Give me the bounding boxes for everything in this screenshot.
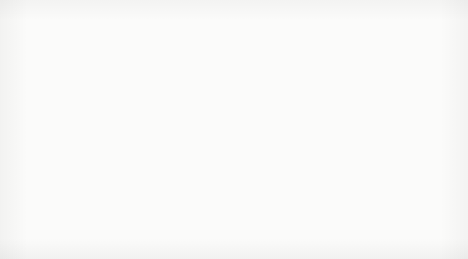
- x-axis-title: Time: [257, 243, 279, 253]
- x-tick-75: 75: [353, 231, 363, 241]
- scale-label-top: 1:: [8, 30, 16, 39]
- y-tick-0.50: 0.50: [44, 123, 82, 133]
- x-tick-0: 0: [85, 231, 90, 241]
- y-axis-labels: 1.00 0.50 0.00: [36, 0, 82, 259]
- x-tick-100: 100: [438, 231, 454, 241]
- series-2-line: [113, 122, 447, 125]
- y-tick-1.00: 1.00: [44, 29, 82, 39]
- plot-area: 1 1 1 1 2 2 2 2 3 3 3 3: [88, 34, 448, 223]
- scale-label-bottom: 1:: [8, 219, 16, 228]
- x-tick-50: 50: [263, 231, 273, 241]
- x-tick-25: 25: [173, 231, 183, 241]
- scale-label-middle: 1:: [8, 124, 16, 133]
- y-tick-0.00: 0.00: [44, 218, 82, 228]
